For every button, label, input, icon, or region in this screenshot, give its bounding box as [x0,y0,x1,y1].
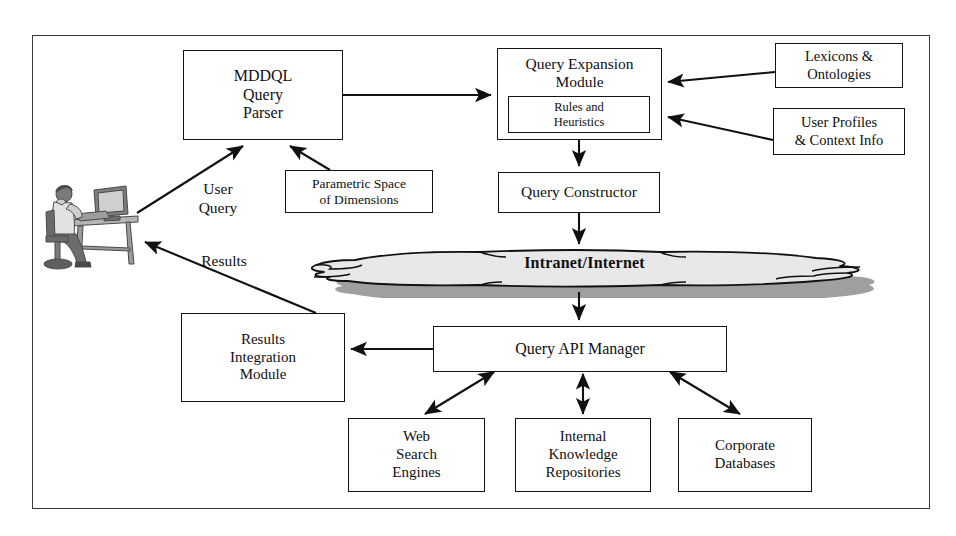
edge-api-to-web-search [425,372,494,414]
edge-lexicons-to-qem [668,72,775,82]
diagram-canvas: Intranet/Internet [0,0,956,536]
edge-profiles-to-rules [668,117,773,140]
edge-results-to-user [145,242,316,313]
edge-api-to-corporate-databases [670,372,740,414]
edge-parametric-to-mddql [290,146,330,170]
connector-layer [0,0,956,536]
edge-user-to-mddql [137,146,243,213]
